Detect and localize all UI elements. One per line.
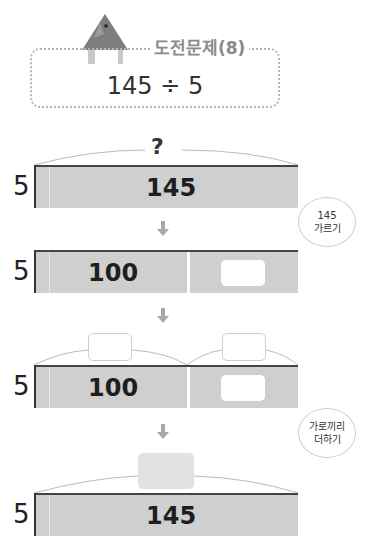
bar-step-4: 145 — [34, 493, 298, 536]
answer-blank[interactable] — [221, 260, 265, 286]
bar-value: 145 — [146, 502, 196, 530]
final-answer-blank[interactable] — [138, 453, 194, 489]
bar-step-2: 100 — [34, 250, 298, 293]
answer-blank[interactable] — [88, 333, 132, 361]
bar-value: 100 — [88, 374, 138, 402]
hint-bubble-add: 가로끼리더하기 — [298, 408, 356, 458]
answer-blank[interactable] — [221, 375, 265, 401]
hint-bubble-split: 145가르기 — [298, 197, 356, 247]
answer-blank[interactable] — [222, 333, 266, 361]
bar-value: 100 — [88, 259, 138, 287]
side-label: 5 — [13, 499, 30, 529]
side-label: 5 — [13, 256, 30, 286]
bar-step-3: 100 — [34, 365, 298, 408]
side-label: 5 — [13, 371, 30, 401]
